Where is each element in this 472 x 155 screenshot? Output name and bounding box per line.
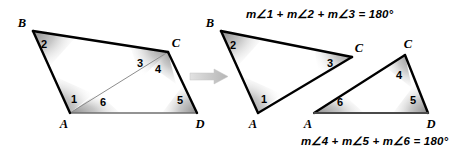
equation-triangle-abc: m∠1 + m∠2 + m∠3 = 180° [246, 7, 393, 21]
angle-label-5-left: 5 [177, 94, 183, 106]
vertex-label-c-middle: C [355, 41, 364, 55]
vertex-label-a-right: A [303, 117, 312, 131]
angle-label-1-left: 1 [71, 93, 77, 105]
arrow-right-icon [190, 69, 228, 84]
vertex-label-a-left: A [59, 117, 68, 131]
angle-label-3-middle: 3 [327, 57, 333, 69]
angle-label-2-middle: 2 [230, 39, 236, 51]
quadrilateral-abcd: B C D A 1 2 3 4 5 6 [17, 16, 205, 131]
angle-label-3-left: 3 [137, 57, 143, 69]
angle-label-4-left: 4 [155, 63, 162, 75]
vertex-label-d-right: D [425, 117, 435, 131]
angle-label-4-right: 4 [396, 69, 403, 81]
geometry-figure: B C D A 1 2 3 4 5 6 B C A 1 2 3 [0, 0, 472, 155]
vertex-label-b-middle: B [205, 16, 214, 30]
angle-label-2-left: 2 [41, 38, 47, 50]
vertex-label-c-right: C [404, 37, 413, 51]
vertex-label-d-left: D [194, 117, 204, 131]
angle-label-6-right: 6 [337, 96, 343, 108]
angle-label-6-left: 6 [100, 96, 106, 108]
angle-2-wedge-middle [221, 31, 263, 68]
diagonal-ac-left [70, 52, 168, 113]
vertex-label-a-middle: A [248, 117, 257, 131]
vertex-label-c-left: C [172, 36, 181, 50]
equation-triangle-acd: m∠4 + m∠5 + m∠6 = 180° [301, 134, 448, 148]
vertex-label-b-left: B [17, 16, 26, 30]
transform-arrow [190, 69, 228, 84]
angle-label-1-middle: 1 [261, 93, 267, 105]
angle-label-5-right: 5 [410, 94, 416, 106]
